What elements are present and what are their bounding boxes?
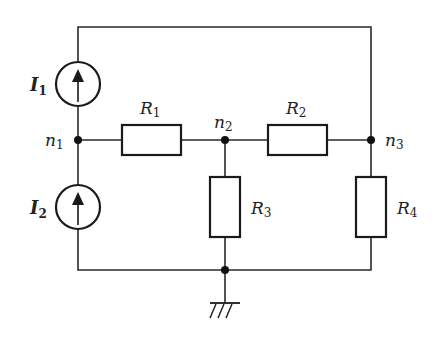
label-n3: n3 (385, 130, 404, 152)
resistor-r3 (210, 177, 240, 237)
node-n3 (367, 136, 375, 144)
node-n1 (74, 136, 82, 144)
resistor-r2 (268, 125, 327, 155)
circuit-diagram: I1 I2 R1 R2 R3 R4 n1 n2 n3 (0, 0, 445, 341)
label-r3: R3 (250, 198, 271, 220)
wires (78, 27, 371, 303)
label-n1: n1 (45, 130, 64, 152)
label-r1: R1 (139, 98, 160, 120)
current-source-i2 (56, 185, 100, 229)
label-r4: R4 (396, 198, 418, 220)
node-bottom (221, 266, 229, 274)
current-source-i1 (56, 62, 100, 106)
label-n2: n2 (214, 112, 233, 134)
node-n2 (221, 136, 229, 144)
ground-icon (210, 303, 240, 318)
label-i1: I1 (29, 74, 47, 98)
label-i2: I2 (29, 197, 47, 221)
resistor-r4 (356, 177, 386, 237)
resistor-r1 (122, 125, 181, 155)
label-r2: R2 (285, 98, 306, 120)
